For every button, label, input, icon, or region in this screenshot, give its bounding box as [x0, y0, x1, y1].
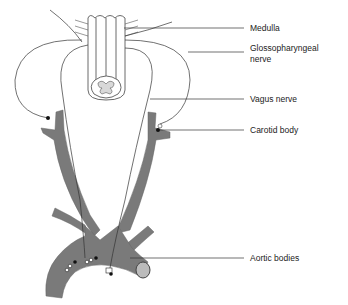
label-carotid-body: Carotid body [250, 125, 298, 135]
label-glossopharyngeal: Glossopharyngeal [250, 43, 319, 53]
right-carotid-body-ring [158, 124, 162, 128]
left-nerve-top [50, 10, 82, 42]
left-carotid-body-dot [46, 116, 50, 120]
label-vagus-nerve: Vagus nerve [250, 94, 297, 104]
label-aortic-bodies: Aortic bodies [250, 253, 299, 263]
aorta-cut-end [136, 262, 150, 278]
blood-vessels [41, 110, 170, 298]
label-medulla: Medulla [250, 23, 280, 33]
aortic-arch [46, 226, 148, 298]
leader-lines [124, 28, 244, 258]
medulla-top-nerve [125, 22, 172, 36]
label-glossopharyngeal-line2: nerve [250, 54, 271, 64]
right-carotid-body-dot [156, 128, 160, 132]
left-glossopharyngeal-nerve [15, 40, 82, 118]
right-glossopharyngeal-nerve [125, 40, 190, 124]
